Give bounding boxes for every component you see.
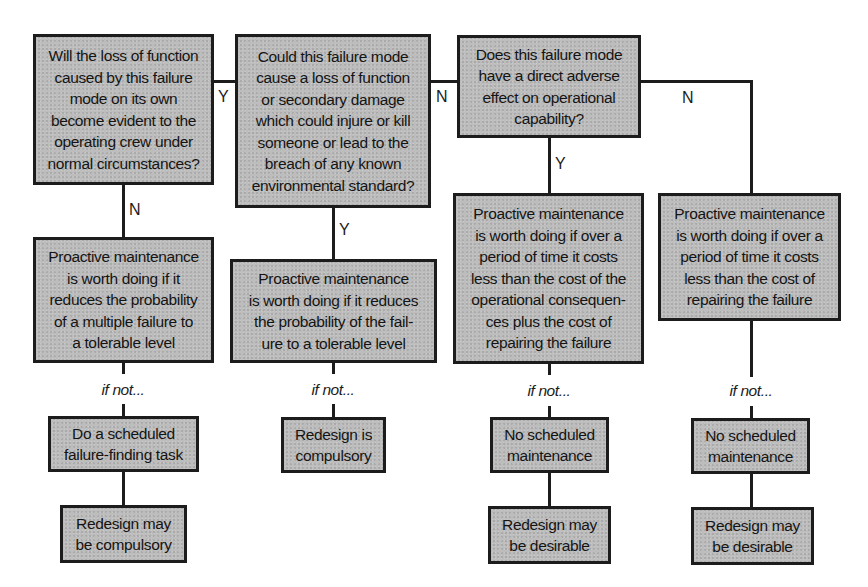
default-text-failure-finding: Do a scheduled failure-finding task: [64, 423, 183, 466]
final-box-redesign-may-be-desirable-non-operational: Redesign may be desirable: [691, 507, 814, 565]
connector-p3-ifnot: [548, 363, 551, 375]
edge-label-q3-p4: N: [682, 89, 694, 107]
final-text-redesign-may-be-desirable-operational: Redesign may be desirable: [502, 514, 597, 557]
connector-q2-q3: [430, 80, 458, 83]
connector-ifnot-d4: [750, 406, 753, 418]
edge-label-q2-q3: N: [436, 88, 448, 106]
connector-q1-q2: [213, 80, 237, 83]
default-text-no-scheduled-maintenance-operational: No scheduled maintenance: [504, 424, 595, 467]
final-box-redesign-may-be-compulsory: Redesign may be compulsory: [60, 505, 187, 563]
if-not-label-3: if not...: [518, 382, 580, 400]
question-text-safety-environment: Could this failure mode cause a loss of …: [252, 46, 415, 197]
connector-q3-p4-vertical: [750, 80, 753, 194]
edge-label-q2-p2: Y: [339, 221, 350, 239]
final-text-redesign-may-be-desirable-non-operational: Redesign may be desirable: [705, 515, 800, 558]
final-box-redesign-may-be-desirable-operational: Redesign may be desirable: [488, 506, 611, 564]
if-not-label-2: if not...: [302, 381, 364, 399]
proactive-text-non-operational: Proactive maintenance is worth doing if …: [674, 203, 824, 311]
question-box-evident: Will the loss of function caused by this…: [33, 34, 214, 185]
if-not-label-4: if not...: [720, 382, 782, 400]
edge-label-q3-p3: Y: [555, 155, 566, 173]
connector-q3-p4-horizontal: [640, 80, 753, 83]
default-text-no-scheduled-maintenance-non-operational: No scheduled maintenance: [705, 425, 796, 468]
edge-label-q1-q2: Y: [218, 88, 229, 106]
proactive-text-safety: Proactive maintenance is worth doing if …: [249, 268, 418, 354]
proactive-box-non-operational: Proactive maintenance is worth doing if …: [658, 193, 841, 321]
final-text-redesign-may-be-compulsory: Redesign may be compulsory: [75, 513, 171, 556]
default-box-no-scheduled-maintenance-operational: No scheduled maintenance: [490, 417, 609, 473]
connector-d4-f4: [750, 473, 753, 508]
proactive-box-safety: Proactive maintenance is worth doing if …: [230, 259, 437, 363]
connector-d1-f1: [122, 471, 125, 506]
question-box-safety-environment: Could this failure mode cause a loss of …: [235, 34, 431, 208]
connector-ifnot-d2: [332, 404, 335, 417]
connector-p4-ifnot: [750, 320, 753, 377]
proactive-box-operational: Proactive maintenance is worth doing if …: [453, 193, 644, 364]
proactive-box-hidden: Proactive maintenance is worth doing if …: [33, 237, 214, 363]
if-not-label-1: if not...: [92, 381, 154, 399]
connector-p2-ifnot: [332, 362, 335, 374]
connector-p1-ifnot: [122, 362, 125, 374]
connector-d3-f3: [548, 472, 551, 507]
proactive-text-operational: Proactive maintenance is worth doing if …: [471, 203, 626, 354]
edge-label-q1-p1: N: [129, 201, 141, 219]
default-text-redesign-compulsory: Redesign is compulsory: [295, 424, 372, 467]
connector-q3-p3: [548, 137, 551, 194]
failure-consequence-flowchart: Y N N N Y Y Will the loss of function ca…: [0, 0, 868, 587]
question-box-operational: Does this failure mode have a direct adv…: [457, 35, 641, 138]
default-box-failure-finding: Do a scheduled failure-finding task: [48, 416, 199, 472]
default-box-no-scheduled-maintenance-non-operational: No scheduled maintenance: [691, 418, 810, 474]
question-text-operational: Does this failure mode have a direct adv…: [476, 44, 623, 130]
connector-q2-p2: [332, 207, 335, 260]
connector-q1-p1: [122, 184, 125, 238]
question-text-evident: Will the loss of function caused by this…: [47, 45, 199, 174]
proactive-text-hidden: Proactive maintenance is worth doing if …: [48, 246, 198, 354]
default-box-redesign-compulsory: Redesign is compulsory: [281, 417, 386, 473]
